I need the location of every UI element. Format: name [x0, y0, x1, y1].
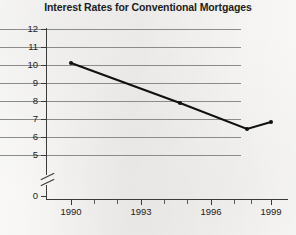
data-point-1998 [245, 127, 249, 131]
data-series-layer [0, 0, 296, 235]
data-point-1999 [269, 120, 273, 124]
data-point-markers-group [69, 61, 273, 131]
chart-figure: Interest Rates for Conventional Mortgage… [0, 0, 296, 235]
line-series-interest-rate [71, 63, 271, 129]
data-point-1990 [69, 61, 73, 65]
data-point-1994 [178, 101, 182, 105]
